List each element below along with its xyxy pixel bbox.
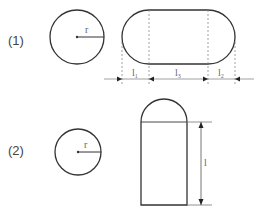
diagram-canvas [0, 0, 264, 214]
figure2-radius-label: r [84, 139, 87, 150]
figure2-height-label: l [204, 157, 207, 168]
figure1-circle [50, 10, 104, 64]
figure2-number: (2) [8, 143, 24, 158]
figure1-number: (1) [8, 33, 24, 48]
figure2-circle [55, 129, 101, 175]
figure1-radius-label: r [85, 24, 88, 35]
dimension-l1: l1 [132, 67, 138, 79]
figure1-stadium [122, 10, 235, 64]
dimension-l3: l3 [175, 67, 181, 79]
figure2-dimension-line [199, 122, 204, 205]
dimension-l2: l2 [218, 67, 224, 79]
figure2-tube [141, 99, 187, 205]
figure2-extension-lines [187, 122, 212, 205]
